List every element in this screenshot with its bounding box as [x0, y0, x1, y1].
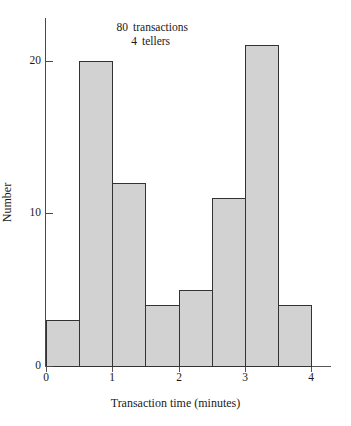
histogram-bar [79, 61, 113, 367]
histogram-bar [46, 320, 80, 367]
x-axis-tick-label: 1 [102, 371, 122, 383]
annotation-value-transactions: 80 [112, 20, 128, 34]
annotation-label-tellers: tellers [142, 35, 170, 47]
histogram-bar [179, 290, 213, 367]
x-axis-tick-label: 2 [169, 371, 189, 383]
histogram-bar [112, 183, 146, 367]
chart-annotation: 80transactions 4tellers [112, 20, 188, 48]
y-axis-tick-label: 10 [20, 207, 41, 219]
annotation-line-transactions: 80transactions [112, 20, 188, 34]
y-axis-tick-label: 0 [20, 360, 41, 372]
x-axis-tick-label: 4 [301, 371, 321, 383]
histogram-figure: 01020 01234 Number Transaction time (min… [0, 0, 351, 426]
histogram-bar [145, 305, 179, 367]
y-axis-tick-label: 20 [20, 55, 41, 67]
histogram-bar [212, 198, 246, 367]
x-axis-title: Transaction time (minutes) [0, 396, 351, 410]
annotation-line-tellers: 4tellers [112, 34, 188, 48]
y-axis-tick [46, 61, 53, 62]
histogram-bar [278, 305, 312, 367]
y-axis-tick [46, 213, 53, 214]
y-axis-title: Number [1, 173, 14, 233]
x-axis-tick-label: 0 [36, 371, 56, 383]
histogram-bar [245, 45, 279, 367]
plot-area [46, 18, 311, 366]
annotation-label-transactions: transactions [133, 21, 188, 33]
annotation-value-tellers: 4 [121, 34, 137, 48]
x-axis-tick-label: 3 [235, 371, 255, 383]
y-axis-tick [46, 366, 53, 367]
